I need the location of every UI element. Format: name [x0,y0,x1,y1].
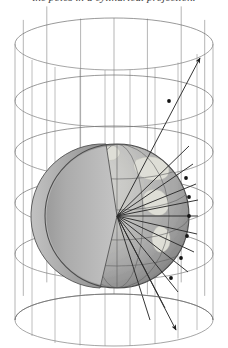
earth-globe [31,144,189,291]
cylinder-bottom-front-edge [15,294,213,320]
cutaway-wedge [31,144,117,288]
cylindrical-projection-diagram [0,0,228,348]
ray-node [185,234,189,238]
figure-root: the poles in a cylindrical projection. [0,0,228,348]
ray-node [167,99,171,103]
ray-node [187,195,191,199]
ray-node [179,256,183,260]
ray-node [187,214,191,218]
ray-node [184,176,188,180]
ray-node [169,276,173,280]
